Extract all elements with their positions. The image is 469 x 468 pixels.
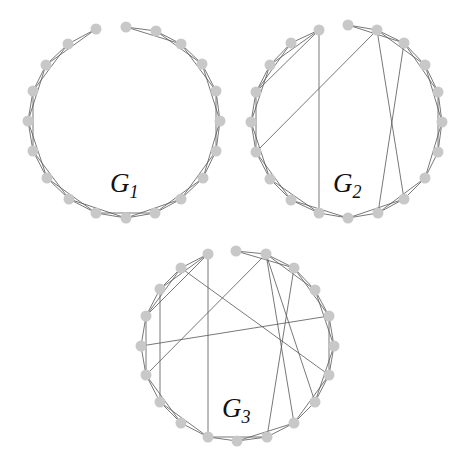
- node: [261, 249, 272, 260]
- node: [203, 432, 214, 443]
- node: [314, 208, 325, 219]
- node: [251, 147, 262, 158]
- node: [343, 20, 354, 31]
- edge: [378, 43, 404, 213]
- node: [176, 263, 187, 274]
- node: [373, 208, 384, 219]
- node: [155, 284, 166, 295]
- node: [42, 173, 53, 184]
- edge: [266, 254, 294, 423]
- node: [150, 208, 161, 219]
- edge: [256, 30, 377, 152]
- node: [91, 24, 102, 35]
- node: [324, 370, 335, 381]
- node: [433, 147, 444, 158]
- node: [310, 397, 321, 408]
- edge: [141, 316, 329, 346]
- node: [310, 285, 321, 296]
- node: [64, 194, 75, 205]
- node: [289, 418, 300, 429]
- edge: [270, 30, 319, 65]
- graph-label-g3: G3: [222, 393, 251, 427]
- graph-g1: G1: [23, 22, 226, 224]
- node: [23, 116, 34, 127]
- node: [121, 22, 132, 33]
- graph-label-g2: G2: [333, 168, 362, 202]
- graph-label-g1: G1: [110, 168, 139, 202]
- node: [265, 60, 276, 71]
- node: [232, 436, 243, 447]
- node: [155, 397, 166, 408]
- node: [286, 38, 297, 49]
- node: [289, 263, 300, 274]
- node: [203, 249, 214, 260]
- node: [198, 173, 209, 184]
- edge: [377, 30, 404, 199]
- edge: [267, 268, 294, 437]
- node: [246, 117, 257, 128]
- node: [41, 60, 52, 71]
- node: [211, 86, 222, 97]
- node: [136, 341, 147, 352]
- node: [28, 146, 39, 157]
- node: [251, 87, 262, 98]
- node: [262, 432, 273, 443]
- node: [286, 195, 297, 206]
- node: [211, 146, 222, 157]
- node: [437, 117, 448, 128]
- node: [231, 246, 242, 257]
- node: [176, 194, 187, 205]
- node: [343, 213, 354, 224]
- node: [141, 311, 152, 322]
- node: [399, 38, 410, 49]
- node: [420, 173, 431, 184]
- node: [28, 86, 39, 97]
- node: [176, 39, 187, 50]
- node: [399, 194, 410, 205]
- node: [314, 25, 325, 36]
- node: [324, 311, 335, 322]
- node: [63, 39, 74, 50]
- graph-g3: G3: [136, 246, 340, 447]
- node: [176, 418, 187, 429]
- node: [121, 213, 132, 224]
- node: [433, 87, 444, 98]
- node: [151, 26, 162, 37]
- node: [141, 370, 152, 381]
- node: [91, 208, 102, 219]
- edge: [146, 254, 208, 316]
- edge: [146, 254, 266, 375]
- edge: [266, 254, 315, 402]
- node: [372, 25, 383, 36]
- graph-g2: G2: [246, 20, 448, 224]
- node: [265, 174, 276, 185]
- node: [215, 116, 226, 127]
- node: [197, 59, 208, 70]
- node: [329, 341, 340, 352]
- node: [420, 60, 431, 71]
- network-diagram: G1 G2 G3: [0, 0, 469, 468]
